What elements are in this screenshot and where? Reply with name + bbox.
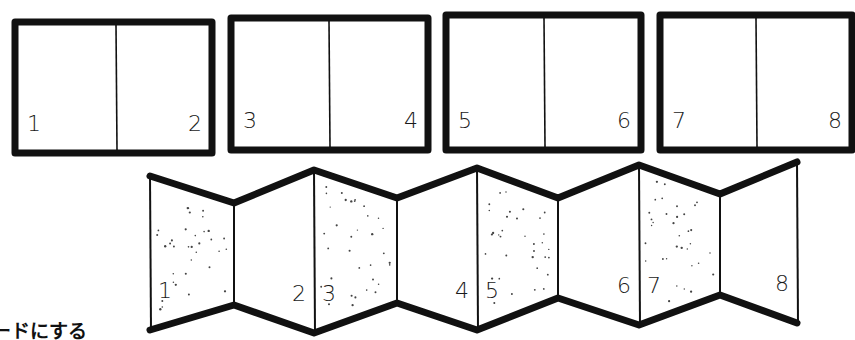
spread-1: 12 [15,22,212,153]
stipple-dot [330,206,331,207]
stipple-dot [548,249,549,250]
stipple-dot [367,215,369,217]
stipple-dot [363,205,365,207]
stipple-dot [372,279,374,281]
stipple-dot [198,242,200,244]
stipple-dot [189,211,191,213]
fold-line [329,21,330,147]
stipple-dot [371,233,373,235]
stipple-dot [225,248,227,250]
stipple-dot [661,197,663,199]
stipple-dot [224,290,226,292]
stipple-dot [544,212,546,214]
spread-frame [15,22,212,153]
stipple-dot [666,213,668,215]
stipple-dot [506,216,508,218]
stipple-dot [378,218,379,219]
stipple-dot [683,213,685,215]
page-number-label: 6 [617,273,631,298]
stipple-dot [547,274,549,276]
stipple-dot [688,230,690,232]
stipple-dot [645,260,647,262]
stipple-dot [522,208,524,210]
stipple-dot [652,222,654,224]
stipple-dot [326,193,328,195]
stipple-dot [188,246,190,248]
stipple-dot [351,304,353,306]
page-number-label: 1 [158,278,172,303]
stipple-dot [209,266,211,268]
stipple-dot [500,236,502,238]
stipple-dot [202,210,204,212]
stipple-dot [169,242,171,244]
spread-2: 34 [231,18,428,150]
spread-4: 78 [660,15,852,150]
stipple-dot [539,217,541,219]
page-number-label: 3 [243,108,257,133]
stipple-dot [709,252,711,254]
stipple-dot [672,222,674,224]
stipple-dot [351,295,353,297]
stipple-dot [223,238,225,240]
stipple-dot [341,192,343,194]
stipple-dot [323,233,325,235]
stipple-dot [690,243,692,245]
stipple-dot [195,235,197,237]
stipple-dot [645,242,647,244]
stipple-dot [501,230,503,232]
stipple-dot [676,216,678,218]
stipple-dot [516,217,518,219]
stipple-dot [542,242,543,243]
page-number-label: 5 [485,278,499,303]
stipple-dot [203,231,205,233]
stipple-dot [370,264,372,266]
stipple-dot [187,207,189,209]
stipple-dot [690,291,692,293]
stipple-dot [698,263,700,265]
crease-line [150,176,151,330]
fold-line [756,18,757,147]
stipple-dot [208,230,210,232]
stipple-dot [544,256,546,258]
stipple-dot [648,212,650,214]
stipple-dot [171,239,173,241]
spread-3: 56 [446,15,641,150]
flat-spreads-row: 12345678 [15,15,852,153]
stipple-dot [185,273,187,275]
page-number-label: 4 [455,278,469,303]
stipple-dot [505,191,506,192]
crease-line [314,170,315,333]
stipple-dot [345,199,347,201]
stipple-dot [350,200,352,202]
stipple-dot [350,236,352,238]
stipple-dot [511,293,513,295]
stipple-dot [543,288,545,290]
page-number-label: 5 [458,108,472,133]
stipple-dot [175,284,177,286]
stipple-dot [509,211,511,213]
stipple-dot [173,282,175,284]
page-number-label: 6 [617,108,631,133]
stipple-dot [191,246,193,248]
stipple-dot [684,288,685,289]
stipple-dot [336,224,338,226]
stipple-dot [156,234,158,236]
stipple-dot [654,199,656,201]
stipple-dot [536,267,538,269]
stipple-dot [532,256,534,258]
stipple-dot [191,259,193,261]
stipple-dot [327,247,329,249]
stipple-dot [164,245,166,247]
stipple-dot [358,267,360,269]
stipple-dot [662,258,664,260]
stipple-dot [173,273,175,275]
stipple-dot [383,252,385,254]
stipple-dot [354,200,356,202]
stipple-dot [325,186,327,188]
stipple-dot [330,277,332,279]
stipple-dot [656,181,658,183]
accordion-fold-diagram: 12345678 12345678 [0,0,855,340]
stipple-dot [524,235,525,236]
stipple-dot [678,235,680,237]
stipple-dot [676,245,678,247]
